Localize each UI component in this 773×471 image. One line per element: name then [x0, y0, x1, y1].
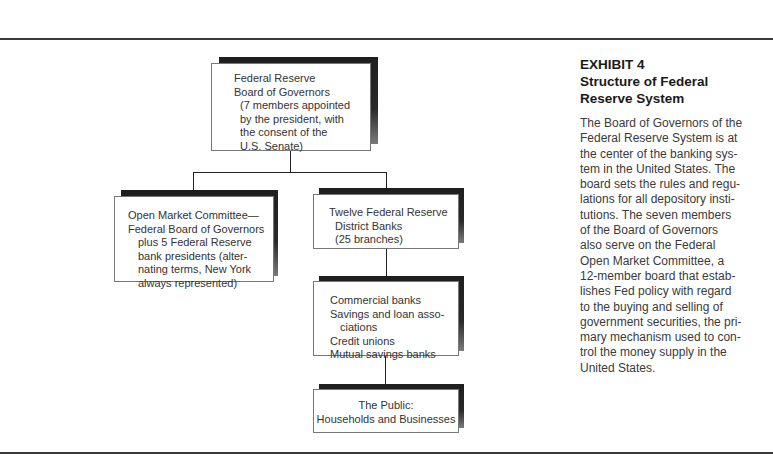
description-line: 12-member board that estab-	[580, 269, 765, 284]
public-box: The Public: Households and Businesses	[313, 389, 459, 433]
open-market-committee-box: Open Market Committee— Federal Board of …	[114, 196, 274, 282]
public-line: The Public:	[314, 399, 458, 413]
district-line: Twelve Federal Reserve	[329, 206, 458, 220]
district-line: (25 branches)	[329, 233, 458, 247]
description-line: Open Market Committee, a	[580, 254, 765, 269]
description-line: also serve on the Federal	[580, 238, 765, 253]
board-line: by the president, with	[234, 113, 370, 127]
fomc-line: plus 5 Federal Reserve	[128, 236, 273, 250]
description-line: of the Board of Governors	[580, 223, 765, 238]
description-line: mary mechanism used to con-	[580, 330, 765, 345]
description-line: tutions. The seven members	[580, 208, 765, 223]
depository-line: ciations	[330, 321, 458, 335]
description-line: lations for all depository insti-	[580, 192, 765, 207]
board-line: Board of Governors	[234, 86, 370, 100]
description-line: Federal Reserve System is at	[580, 131, 765, 146]
fomc-line: always represented)	[128, 277, 273, 291]
description-line: tem in the United States. The	[580, 162, 765, 177]
fomc-line: nating terms, New York	[128, 263, 273, 277]
district-line: District Banks	[329, 220, 458, 234]
depository-line: Savings and loan asso-	[330, 308, 458, 322]
board-line: the consent of the	[234, 126, 370, 140]
exhibit-title-line: Reserve System	[580, 90, 765, 107]
exhibit-title-line: Structure of Federal	[580, 73, 765, 90]
board-line: Federal Reserve	[234, 72, 370, 86]
bottom-rule	[0, 452, 773, 454]
fomc-line: Open Market Committee—	[128, 209, 273, 223]
description-line: United States.	[580, 361, 765, 376]
fomc-line: Federal Board of Governors	[128, 223, 273, 237]
depository-line: Credit unions	[330, 335, 458, 349]
fomc-line: bank presidents (alter-	[128, 250, 273, 264]
top-rule	[0, 38, 773, 40]
depository-line: Commercial banks	[330, 294, 458, 308]
description-line: board sets the rules and regu-	[580, 177, 765, 192]
description-line: the center of the banking sys-	[580, 147, 765, 162]
district-banks-box: Twelve Federal Reserve District Banks (2…	[313, 194, 459, 249]
board-line: U.S. Senate)	[234, 140, 370, 154]
exhibit-description: The Board of Governors of the Federal Re…	[580, 116, 765, 376]
description-line: government securities, the pri-	[580, 315, 765, 330]
description-line: trol the money supply in the	[580, 345, 765, 360]
board-of-governors-box: Federal Reserve Board of Governors (7 me…	[211, 63, 371, 151]
description-line: The Board of Governors of the	[580, 116, 765, 131]
board-line: (7 members appointed	[234, 99, 370, 113]
connector-to-fomc	[193, 172, 194, 192]
exhibit-caption: EXHIBIT 4 Structure of Federal Reserve S…	[580, 56, 765, 376]
depository-line: Mutual savings banks	[330, 348, 458, 362]
depository-institutions-box: Commercial banks Savings and loan asso- …	[313, 281, 459, 356]
public-line: Households and Businesses	[314, 413, 458, 427]
description-line: lishes Fed policy with regard	[580, 284, 765, 299]
description-line: to the buying and selling of	[580, 300, 765, 315]
connector-branch	[193, 172, 386, 173]
exhibit-label: EXHIBIT 4	[580, 56, 765, 73]
